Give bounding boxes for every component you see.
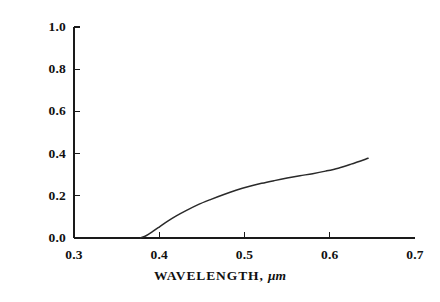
axes-group xyxy=(74,27,415,238)
x-axis-title: WAVELENGTH, μm xyxy=(0,268,440,284)
transmittance-chart-figure: 0.00.20.40.60.81.0 0.30.40.50.60.7 EXTER… xyxy=(0,0,440,302)
transmittance-curve xyxy=(141,158,369,238)
ticks-group xyxy=(74,27,330,238)
y-axis-tick-label: 0.6 xyxy=(24,103,66,119)
y-axis-tick-label: 0.8 xyxy=(24,61,66,77)
y-axis-tick-label: 1.0 xyxy=(24,19,66,35)
x-axis-title-text: WAVELENGTH, xyxy=(154,268,264,283)
x-axis-tick-label: 0.5 xyxy=(236,247,253,263)
x-axis-tick-label: 0.4 xyxy=(151,247,168,263)
x-axis-unit-label: μm xyxy=(268,268,286,283)
x-axis-tick-label: 0.6 xyxy=(321,247,338,263)
x-axis-tick-label: 0.7 xyxy=(406,247,423,263)
x-axis-tick-label: 0.3 xyxy=(65,247,82,263)
data-curve-group xyxy=(141,158,369,238)
y-axis-tick-label: 0.4 xyxy=(24,146,66,162)
y-axis-tick-label: 0.2 xyxy=(24,188,66,204)
y-axis-tick-label: 0.0 xyxy=(24,230,66,246)
